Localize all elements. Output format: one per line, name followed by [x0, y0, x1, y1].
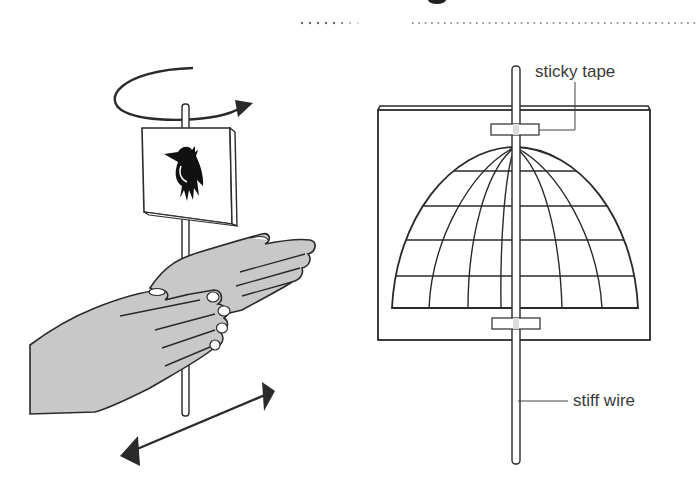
sticky-tape-top [491, 124, 539, 135]
double-arrow-icon [120, 382, 275, 466]
front-hand [30, 289, 230, 415]
rotation-arrowhead-icon [235, 100, 253, 117]
stiff-wire-label: stiff wire [573, 391, 635, 411]
rotation-arrow-icon [115, 68, 240, 120]
dotted-rule-short [301, 22, 359, 24]
sticky-tape-bottom [492, 318, 540, 329]
sticky-tape-label: sticky tape [535, 62, 615, 82]
clipped-heading-glyph [428, 0, 446, 4]
